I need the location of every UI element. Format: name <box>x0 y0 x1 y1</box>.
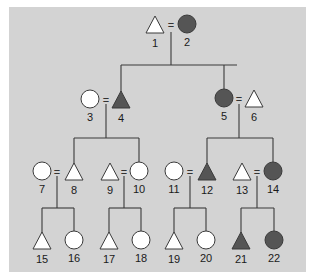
individual-label: 18 <box>135 252 147 264</box>
individual-label: 1 <box>152 37 158 49</box>
individual-16: 16 <box>65 231 83 264</box>
affected-female-circle-icon <box>215 89 233 107</box>
individual-2: 2 <box>178 15 196 48</box>
individual-14: 14 <box>264 162 282 195</box>
unaffected-female-circle-icon <box>81 90 99 108</box>
individual-label: 21 <box>235 253 247 265</box>
individual-label: 6 <box>251 111 257 123</box>
individual-label: 5 <box>221 110 227 122</box>
unaffected-male-triangle-icon <box>165 232 183 249</box>
individual-18: 18 <box>132 231 150 264</box>
individual-22: 22 <box>265 231 283 264</box>
individual-21: 21 <box>232 232 250 265</box>
individual-label: 7 <box>39 183 45 195</box>
individual-15: 15 <box>33 232 51 265</box>
marriage-symbol: = <box>236 93 242 105</box>
individual-label: 3 <box>87 111 93 123</box>
unaffected-male-triangle-icon <box>33 232 51 249</box>
unaffected-male-triangle-icon <box>233 163 251 180</box>
individual-17: 17 <box>100 232 118 265</box>
individual-label: 20 <box>200 252 212 264</box>
marriage-symbol: = <box>168 19 174 31</box>
individual-13: 13 <box>233 163 251 196</box>
individual-4: 4 <box>112 91 130 124</box>
unaffected-female-circle-icon <box>197 231 215 249</box>
individual-label: 9 <box>107 184 113 196</box>
individual-1: 1 <box>146 16 164 49</box>
individual-19: 19 <box>165 232 183 265</box>
individual-label: 4 <box>118 112 124 124</box>
affected-male-triangle-icon <box>232 232 250 249</box>
individual-8: 8 <box>65 163 83 196</box>
marriage-symbol: = <box>103 94 109 106</box>
unaffected-male-triangle-icon <box>65 163 83 180</box>
affected-female-circle-icon <box>264 162 282 180</box>
individual-20: 20 <box>197 231 215 264</box>
individual-label: 16 <box>68 252 80 264</box>
unaffected-male-triangle-icon <box>146 16 164 33</box>
marriage-symbol: = <box>54 166 60 178</box>
unaffected-female-circle-icon <box>65 231 83 249</box>
marriage-symbol: = <box>254 166 260 178</box>
individual-label: 14 <box>267 183 279 195</box>
unaffected-female-circle-icon <box>165 162 183 180</box>
affected-female-circle-icon <box>178 15 196 33</box>
individual-7: 7 <box>33 162 51 195</box>
individual-label: 22 <box>268 252 280 264</box>
marriage-symbol: = <box>121 166 127 178</box>
individual-12: 12 <box>198 163 216 196</box>
individual-label: 17 <box>103 253 115 265</box>
individual-label: 15 <box>36 253 48 265</box>
individual-label: 19 <box>168 253 180 265</box>
individual-3: 3 <box>81 90 99 123</box>
individual-label: 8 <box>71 184 77 196</box>
unaffected-female-circle-icon <box>33 162 51 180</box>
affected-male-triangle-icon <box>198 163 216 180</box>
individual-label: 10 <box>133 183 145 195</box>
individual-label: 11 <box>168 183 179 195</box>
affected-female-circle-icon <box>265 231 283 249</box>
individual-10: 10 <box>130 162 148 195</box>
individual-label: 2 <box>184 36 190 48</box>
unaffected-male-triangle-icon <box>245 90 263 107</box>
unaffected-female-circle-icon <box>130 162 148 180</box>
individual-9: 9 <box>101 163 119 196</box>
individual-label: 12 <box>201 184 213 196</box>
unaffected-male-triangle-icon <box>100 232 118 249</box>
individual-5: 5 <box>215 89 233 122</box>
marriage-symbol: = <box>187 166 193 178</box>
unaffected-male-triangle-icon <box>101 163 119 180</box>
pedigree-chart: =======123456789101112131415161718192021… <box>0 0 314 276</box>
affected-male-triangle-icon <box>112 91 130 108</box>
individual-6: 6 <box>245 90 263 123</box>
individual-11: 11 <box>165 162 183 195</box>
unaffected-female-circle-icon <box>132 231 150 249</box>
individual-label: 13 <box>236 184 248 196</box>
